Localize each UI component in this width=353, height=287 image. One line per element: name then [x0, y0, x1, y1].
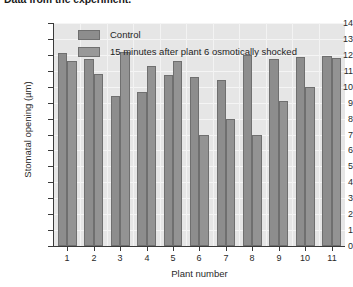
- y-tick-mark: [48, 23, 53, 24]
- x-tick-mark: [120, 247, 121, 251]
- x-tick-label: 9: [269, 253, 289, 263]
- x-tick-label: 8: [242, 253, 262, 263]
- bar-control: [243, 55, 252, 246]
- x-tick-mark: [279, 247, 280, 251]
- x-tick-mark: [173, 247, 174, 251]
- y-tick-label: 13: [309, 35, 353, 44]
- y-tick-label: 12: [309, 51, 353, 60]
- bar-group: [58, 23, 77, 246]
- y-tick-mark: [48, 182, 53, 183]
- bar-control: [58, 53, 67, 246]
- y-tick-mark: [48, 135, 53, 136]
- x-axis-title: Plant number: [54, 268, 345, 279]
- bar-control: [111, 96, 120, 246]
- y-axis-title: Stomatal opening (µm): [22, 45, 33, 215]
- bar-shocked: [173, 61, 182, 246]
- bar-shocked: [147, 66, 156, 246]
- bar-shocked: [199, 135, 208, 247]
- x-tick-mark: [199, 247, 200, 251]
- x-tick-label: 11: [322, 253, 342, 263]
- y-tick-mark: [48, 119, 53, 120]
- x-tick-label: 2: [84, 253, 104, 263]
- x-tick-mark: [305, 247, 306, 251]
- legend-swatch-shocked: [78, 47, 100, 57]
- x-tick-label: 3: [110, 253, 130, 263]
- x-tick-label: 1: [57, 253, 77, 263]
- y-tick-mark: [48, 214, 53, 215]
- y-tick-label: 10: [309, 83, 353, 92]
- x-tick-label: 6: [189, 253, 209, 263]
- y-tick-label: 9: [309, 99, 353, 108]
- y-tick-mark: [48, 166, 53, 167]
- bar-control: [137, 92, 146, 247]
- y-tick-mark: [48, 71, 53, 72]
- chart-title: Data from the experiment.: [4, 0, 131, 5]
- x-tick-label: 5: [163, 253, 183, 263]
- x-tick-mark: [332, 247, 333, 251]
- x-tick-mark: [226, 247, 227, 251]
- bar-shocked: [279, 101, 288, 246]
- bar-control: [84, 59, 93, 246]
- bar-shocked: [252, 135, 261, 247]
- y-tick-label: 4: [309, 178, 353, 187]
- x-tick-mark: [67, 247, 68, 251]
- x-tick-mark: [94, 247, 95, 251]
- y-tick-label: 14: [309, 19, 353, 28]
- bar-shocked: [226, 119, 235, 246]
- legend-item-control: Control: [78, 27, 297, 42]
- y-tick-label: 8: [309, 115, 353, 124]
- y-tick-label: 5: [309, 162, 353, 171]
- y-tick-label: 0: [309, 242, 353, 251]
- y-tick-mark: [48, 103, 53, 104]
- y-axis-line: [53, 23, 54, 247]
- y-tick-label: 6: [309, 146, 353, 155]
- chart-legend: Control 15 minutes after plant 6 osmotic…: [78, 27, 297, 61]
- x-tick-label: 4: [137, 253, 157, 263]
- legend-swatch-control: [78, 30, 100, 40]
- bar-shocked: [67, 61, 76, 246]
- y-tick-label: 7: [309, 131, 353, 140]
- y-tick-label: 2: [309, 210, 353, 219]
- bar-control: [164, 75, 173, 246]
- y-tick-mark: [48, 230, 53, 231]
- y-tick-label: 11: [309, 67, 353, 76]
- x-tick-label: 10: [295, 253, 315, 263]
- y-tick-mark: [48, 39, 53, 40]
- y-tick-label: 1: [309, 226, 353, 235]
- bar-shocked: [94, 74, 103, 246]
- y-tick-label: 3: [309, 194, 353, 203]
- legend-item-shocked: 15 minutes after plant 6 osmotically sho…: [78, 44, 297, 59]
- bar-shocked: [120, 52, 129, 246]
- bar-control: [269, 59, 278, 246]
- x-tick-label: 7: [216, 253, 236, 263]
- y-tick-mark: [48, 198, 53, 199]
- chart-figure: Stomatal opening (µm) Control 15 minutes…: [0, 6, 353, 287]
- x-tick-mark: [252, 247, 253, 251]
- y-tick-mark: [48, 55, 53, 56]
- legend-label-shocked: 15 minutes after plant 6 osmotically sho…: [110, 46, 297, 57]
- bar-control: [190, 77, 199, 246]
- legend-label-control: Control: [110, 29, 141, 40]
- x-tick-mark: [147, 247, 148, 251]
- y-tick-mark: [48, 246, 53, 247]
- bar-control: [217, 80, 226, 246]
- plot-area: Control 15 minutes after plant 6 osmotic…: [54, 23, 345, 246]
- y-tick-mark: [48, 150, 53, 151]
- bar-control: [296, 57, 305, 246]
- y-tick-mark: [48, 87, 53, 88]
